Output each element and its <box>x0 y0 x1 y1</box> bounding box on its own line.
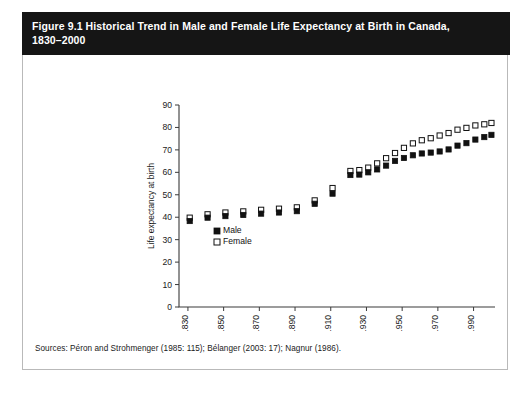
figure-title-line-2: 1830–2000 <box>32 33 500 47</box>
male-data-point <box>455 143 460 148</box>
female-data-point <box>410 141 415 146</box>
figure-title-bar: Figure 9.1 Historical Trend in Male and … <box>22 12 510 55</box>
y-tick-label: 40 <box>162 212 172 222</box>
legend-swatch-male <box>214 228 220 234</box>
chart-plot-area: 0102030405060708090 18301850187018901910… <box>23 61 509 331</box>
x-tick-label: 1830 <box>180 315 190 331</box>
y-tick-label: 10 <box>162 280 172 290</box>
male-data-point <box>294 209 299 214</box>
female-data-point <box>446 130 451 135</box>
male-data-point <box>383 163 388 168</box>
male-data-point <box>375 167 380 172</box>
figure-panel: Figure 9.1 Historical Trend in Male and … <box>22 12 508 370</box>
series-male-points <box>187 132 494 223</box>
male-data-point <box>410 153 415 158</box>
male-data-point <box>482 134 487 139</box>
x-tick-label: 1890 <box>287 315 297 331</box>
male-data-point <box>312 201 317 206</box>
y-tick-labels: 0102030405060708090 <box>162 100 172 312</box>
male-data-point <box>348 172 353 177</box>
male-data-point <box>205 215 210 220</box>
chart-legend: MaleFemale <box>214 225 252 246</box>
male-data-point <box>357 172 362 177</box>
male-data-point <box>276 210 281 215</box>
figure-source-note: Sources: Péron and Strohmenger (1985: 11… <box>35 344 341 353</box>
x-tick-label: 1910 <box>323 315 333 331</box>
male-data-point <box>259 211 264 216</box>
y-tick-label: 50 <box>162 190 172 200</box>
male-data-point <box>428 150 433 155</box>
x-tick-label: 1950 <box>394 315 404 331</box>
male-data-point <box>437 149 442 154</box>
male-data-point <box>241 212 246 217</box>
x-tick-label: 1970 <box>430 315 440 331</box>
female-data-point <box>464 125 469 130</box>
y-tick-label: 90 <box>162 100 172 110</box>
legend-label-female: Female <box>223 236 252 246</box>
female-data-point <box>482 122 487 127</box>
x-tick-label: 1930 <box>358 315 368 331</box>
male-data-point <box>366 170 371 175</box>
y-tick-label: 80 <box>162 122 172 132</box>
series-female-points <box>187 120 494 220</box>
male-data-point <box>489 132 494 137</box>
male-data-point <box>401 155 406 160</box>
female-data-point <box>437 133 442 138</box>
female-data-point <box>383 156 388 161</box>
x-tick-label: 1850 <box>216 315 226 331</box>
male-data-point <box>392 158 397 163</box>
female-data-point <box>330 185 335 190</box>
female-data-point <box>375 161 380 166</box>
male-data-point <box>330 191 335 196</box>
legend-swatch-female <box>214 239 220 245</box>
male-data-point <box>419 151 424 156</box>
y-tick-label: 70 <box>162 145 172 155</box>
figure-title-line-1: Figure 9.1 Historical Trend in Male and … <box>32 19 500 33</box>
x-tick-labels: 183018501870189019101930195019701990 <box>180 315 476 331</box>
male-data-point <box>464 141 469 146</box>
y-axis-title-text: Life expectancy at birth <box>146 163 156 249</box>
y-axis-title: Life expectancy at birth <box>146 163 156 249</box>
x-tick-label: 1990 <box>466 315 476 331</box>
female-data-point <box>455 127 460 132</box>
y-tick-label: 0 <box>167 302 172 312</box>
female-data-point <box>489 120 494 125</box>
x-tick-label: 1870 <box>251 315 261 331</box>
female-data-point <box>392 150 397 155</box>
female-data-point <box>419 138 424 143</box>
female-data-point <box>473 123 478 128</box>
y-tick-label: 20 <box>162 257 172 267</box>
life-expectancy-scatter-chart: 0102030405060708090 18301850187018901910… <box>23 61 509 331</box>
legend-label-male: Male <box>223 225 242 235</box>
y-tick-label: 60 <box>162 167 172 177</box>
female-data-point <box>428 136 433 141</box>
male-data-point <box>223 214 228 219</box>
y-tick-label: 30 <box>162 235 172 245</box>
male-data-point <box>473 137 478 142</box>
female-data-point <box>401 145 406 150</box>
male-data-point <box>446 147 451 152</box>
male-data-point <box>187 218 192 223</box>
